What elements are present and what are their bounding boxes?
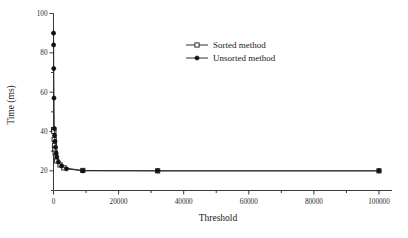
data-point [52,96,56,100]
data-point [60,164,64,168]
series-path [54,130,379,171]
data-point [53,133,57,137]
data-point [52,43,56,47]
x-axis: 020000400006000080000100000 Threshold [52,191,392,224]
legend-entry-unsorted-method: Unsorted method [186,53,276,63]
data-point [55,155,59,159]
series-sorted-method [52,127,382,173]
y-tick-label: 40 [40,128,48,136]
x-tick-label: 20000 [110,198,128,206]
legend-label: Sorted method [213,40,266,50]
x-axis-title: Threshold [199,213,238,223]
y-axis: 20406080100 Time (ms) [6,10,54,190]
data-point [51,31,55,35]
data-point [53,145,57,149]
legend-entry-sorted-method: Sorted method [186,40,266,50]
y-tick-label: 60 [40,89,48,97]
x-tick-labels: 020000400006000080000100000 [52,198,390,206]
data-point [52,126,56,130]
data-point [377,169,381,173]
data-point [52,66,56,70]
legend-label: Unsorted method [213,53,276,63]
x-tick-label: 0 [52,198,56,206]
chart-legend: Sorted methodUnsorted method [186,40,276,63]
data-point [54,151,58,155]
legend-marker [195,43,199,47]
x-tick-label: 40000 [175,198,193,206]
x-tick-label: 80000 [305,198,323,206]
chart-figure: 20406080100 Time (ms) 020000400006000080… [0,0,408,238]
data-point [156,169,160,173]
data-point [64,167,68,171]
y-tick-label: 80 [40,49,48,57]
y-axis-title: Time (ms) [6,85,17,125]
chart-svg: 20406080100 Time (ms) 020000400006000080… [0,0,408,238]
data-point [53,139,57,143]
y-tick-labels: 20406080100 [37,10,48,175]
y-tick-label: 100 [37,10,48,18]
y-tick-label: 20 [40,167,48,175]
data-point [56,160,60,164]
x-tick-label: 60000 [240,198,258,206]
data-point [81,169,85,173]
x-tick-label: 100000 [368,198,390,206]
legend-marker [195,56,199,60]
